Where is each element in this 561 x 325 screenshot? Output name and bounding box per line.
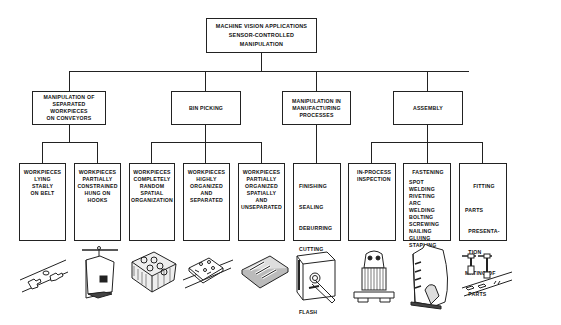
connector	[69, 125, 70, 143]
wrench-tray-icon	[240, 252, 290, 292]
leaf-text: ON BELT	[20, 190, 65, 197]
leaf-text: WORKPIECES	[20, 169, 65, 176]
leaf-text: WORKPIECES	[130, 169, 174, 176]
leaf-text: FINISHING	[299, 183, 337, 190]
connector	[371, 142, 483, 143]
leaf-text: STABLY	[20, 183, 65, 190]
leaf-text: UNSEPARATED	[239, 204, 284, 211]
parts-mating-station-icon	[460, 252, 512, 302]
leaf-text: AND	[184, 190, 229, 197]
category-label: MANIPULATION OF	[43, 94, 94, 101]
leaf-text: ARC WELDING	[409, 200, 447, 214]
leaf-text: PRESENTA-	[465, 228, 503, 235]
connector	[69, 71, 70, 91]
leaf-text: NAILING	[409, 228, 447, 235]
leaf-manufacturing-processes: FINISHING SEALING DEBURRING CUTTING PROC…	[293, 163, 341, 241]
hanging-hook-part-icon	[80, 246, 120, 302]
category-manufacturing: MANIPULATION IN MANUFACTURING PROCESSES	[282, 91, 351, 125]
connector	[316, 71, 317, 91]
leaf-text: HIGHLY	[184, 176, 229, 183]
leaf-text: GLUING	[409, 235, 447, 242]
root-title-line1: MACHINE VISION APPLICATIONS	[216, 22, 307, 31]
random-parts-bin-icon	[130, 250, 178, 296]
leaf-text: SPOT WELDING	[409, 179, 447, 193]
finishing-tool-block-icon	[295, 250, 345, 306]
category-label: PROCESSES	[299, 112, 333, 119]
category-label: MANUFACTURING	[292, 105, 340, 112]
leaf-text: ORGANIZATION	[130, 197, 174, 204]
leaf-text: HOOKS	[75, 197, 120, 204]
category-label: ON CONVEYORS	[47, 115, 92, 122]
connector	[482, 142, 483, 163]
conveyor-belt-workpieces-icon	[18, 252, 68, 294]
leaf-text: CONSTRAINED	[75, 183, 120, 190]
leaf-text: WORKPIECES	[184, 169, 229, 176]
leaf-text: LYING	[20, 176, 65, 183]
connector	[316, 125, 317, 163]
connector	[261, 142, 262, 163]
connector	[371, 142, 372, 163]
leaf-text: WORKPIECES	[239, 169, 284, 176]
connector	[427, 71, 428, 91]
connector	[42, 142, 98, 143]
category-conveyors: MANIPULATION OF SEPARATED WORKPIECES ON …	[32, 91, 106, 125]
category-label: BIN PICKING	[189, 105, 223, 112]
leaf-text: PARTIALLY	[75, 176, 120, 183]
leaf-text: IN-PROCESS	[357, 169, 392, 176]
connector	[97, 142, 98, 163]
organized-parts-tray-icon	[183, 252, 233, 292]
leaf-text: SPATIAL	[130, 190, 174, 197]
inspection-component-icon	[350, 248, 398, 306]
connector	[205, 71, 206, 91]
leaf-inprocess-inspection: IN-PROCESS INSPECTION	[348, 163, 396, 241]
leaf-text: ORGANIZED	[239, 183, 284, 190]
leaf-fastening: FASTENING SPOT WELDING RIVETING ARC WELD…	[403, 163, 451, 241]
connector	[205, 125, 206, 163]
connector	[69, 71, 469, 72]
connector	[151, 142, 152, 163]
leaf-text: SEPARATED	[184, 197, 229, 204]
root-title-line2: SENSOR-CONTROLLED MANIPULATION	[207, 31, 316, 49]
welding-fixture-icon	[405, 244, 451, 310]
leaf-title: FASTENING	[409, 169, 447, 176]
leaf-text: AND	[239, 197, 284, 204]
leaf-text: RANDOM	[130, 183, 174, 190]
leaf-text: DEBURRING	[299, 225, 337, 232]
category-label: MANIPULATION IN	[292, 98, 341, 105]
connector	[42, 142, 43, 163]
category-label: ASSEMBLY	[413, 105, 443, 112]
leaf-fitting: FITTING PARTS PRESENTA- TION MATING OF P…	[459, 163, 507, 241]
leaf-text: WORKPIECES	[75, 169, 120, 176]
leaf-title: FITTING	[465, 183, 503, 190]
leaf-text: PARTIALLY	[239, 176, 284, 183]
category-assembly: ASSEMBLY	[393, 91, 463, 125]
leaf-text: FLASH	[299, 309, 337, 316]
leaf-text: RIVETING	[409, 193, 447, 200]
leaf-text: INSPECTION	[357, 176, 392, 183]
connector	[151, 142, 262, 143]
leaf-text: HUNG ON	[75, 190, 120, 197]
leaf-text: COMPLETELY	[130, 176, 174, 183]
category-label: SEPARATED WORKPIECES	[33, 101, 105, 115]
leaf-text: BOLTING	[409, 214, 447, 221]
leaf-highly-organized: WORKPIECES HIGHLY ORGANIZED AND SEPARATE…	[183, 163, 230, 241]
leaf-text: SPATIALLY	[239, 190, 284, 197]
category-bin-picking: BIN PICKING	[171, 91, 241, 125]
leaf-partially-organized: WORKPIECES PARTIALLY ORGANIZED SPATIALLY…	[238, 163, 285, 241]
leaf-lying-on-belt: WORKPIECES LYING STABLY ON BELT	[19, 163, 66, 241]
connector	[261, 53, 262, 72]
connector	[427, 125, 428, 163]
leaf-text: SEALING	[299, 204, 337, 211]
leaf-random-organization: WORKPIECES COMPLETELY RANDOM SPATIAL ORG…	[129, 163, 175, 241]
leaf-text: SCREWING	[409, 221, 447, 228]
leaf-text: PARTS	[465, 207, 503, 214]
leaf-hung-on-hooks: WORKPIECES PARTIALLY CONSTRAINED HUNG ON…	[74, 163, 121, 241]
leaf-text: ORGANIZED	[184, 183, 229, 190]
root-node: MACHINE VISION APPLICATIONS SENSOR-CONTR…	[206, 18, 317, 53]
